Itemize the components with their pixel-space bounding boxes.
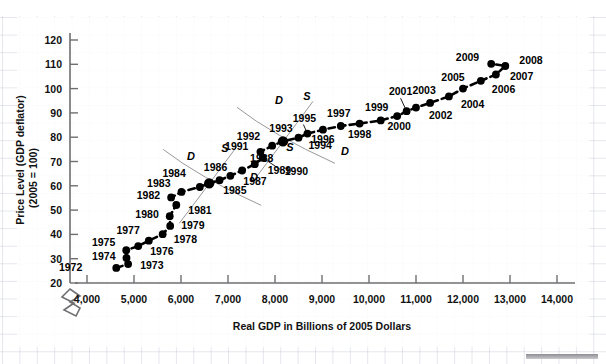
- data-point[interactable]: [426, 99, 434, 107]
- point-label: 2004: [461, 98, 485, 110]
- y-axis-title-line2: (2005 = 100): [27, 148, 39, 208]
- y-tick-label: 40: [50, 228, 62, 240]
- y-tick-label: 70: [50, 156, 62, 168]
- x-tick-label: 5,000: [121, 293, 147, 305]
- point-label: 1982: [137, 189, 161, 201]
- scatter-plot-svg: 20304050607080901001101204,0005,0006,000…: [0, 0, 606, 364]
- point-label: 2000: [388, 120, 412, 132]
- data-point[interactable]: [477, 77, 485, 85]
- data-point[interactable]: [459, 85, 467, 93]
- data-point[interactable]: [251, 160, 259, 168]
- data-point[interactable]: [377, 117, 385, 125]
- point-label: 1999: [365, 101, 389, 113]
- data-point[interactable]: [393, 112, 401, 120]
- point-label: 1998: [348, 128, 372, 140]
- data-point[interactable]: [112, 264, 120, 272]
- point-label: 2002: [429, 109, 453, 121]
- y-tick-label: 50: [50, 204, 62, 216]
- point-label: 1979: [181, 219, 205, 231]
- data-point[interactable]: [167, 194, 175, 202]
- point-label: 1976: [150, 245, 174, 257]
- point-label: 2008: [519, 54, 543, 66]
- data-point[interactable]: [145, 237, 153, 245]
- y-tick-label: 80: [50, 131, 62, 143]
- point-label: 2007: [510, 70, 534, 82]
- point-label: 2005: [441, 71, 465, 83]
- data-point[interactable]: [226, 172, 234, 180]
- data-point[interactable]: [166, 222, 174, 230]
- x-tick-label: 9,000: [309, 293, 335, 305]
- data-point[interactable]: [445, 92, 453, 100]
- data-point[interactable]: [216, 176, 224, 184]
- point-label: 1996: [311, 133, 335, 145]
- data-point[interactable]: [295, 134, 303, 142]
- data-point[interactable]: [122, 246, 130, 254]
- point-label: 1977: [116, 224, 140, 236]
- x-tick-label: 10,000: [353, 293, 385, 305]
- x-tick-label: 11,000: [400, 293, 432, 305]
- data-point[interactable]: [412, 104, 420, 112]
- data-point[interactable]: [178, 188, 186, 196]
- curve-label-S: S: [303, 90, 311, 102]
- point-label: 1972: [59, 261, 83, 273]
- x-tick-label: 13,000: [494, 293, 526, 305]
- curve-label-D: D: [187, 150, 195, 162]
- data-point[interactable]: [487, 60, 495, 68]
- x-axis-ticks: 4,0005,0006,0007,0008,0009,00010,00011,0…: [74, 275, 573, 305]
- x-axis-title: Real GDP in Billions of 2005 Dollars: [233, 320, 412, 332]
- data-point[interactable]: [492, 71, 500, 79]
- point-label: 1987: [243, 175, 267, 187]
- curve-label-D: D: [275, 94, 283, 106]
- point-label: 1978: [174, 233, 198, 245]
- point-label: 1990: [285, 165, 309, 177]
- point-label: 1974: [92, 250, 116, 262]
- y-tick-label: 90: [50, 107, 62, 119]
- data-point[interactable]: [134, 242, 142, 250]
- point-label: 1995: [293, 112, 317, 124]
- point-label: 1984: [162, 167, 186, 179]
- chart-figure: 20304050607080901001101204,0005,0006,000…: [0, 0, 606, 364]
- point-label: 2001: [389, 85, 413, 97]
- data-point[interactable]: [356, 120, 364, 128]
- y-axis-title-line1: Price Level (GDP deflator): [14, 95, 26, 224]
- point-label: 1993: [269, 122, 293, 134]
- point-label: 2009: [456, 51, 480, 63]
- point-label: 1986: [204, 161, 228, 173]
- data-point[interactable]: [123, 254, 131, 262]
- y-axis-ticks: 2030405060708090100110120: [44, 34, 78, 289]
- data-point[interactable]: [238, 167, 246, 175]
- x-tick-label: 7,000: [215, 293, 241, 305]
- data-point[interactable]: [159, 230, 167, 238]
- curve-label-D: D: [341, 145, 349, 157]
- data-point[interactable]: [278, 136, 288, 146]
- point-label: 2006: [492, 83, 516, 95]
- data-point[interactable]: [268, 142, 276, 150]
- point-label: 2003: [412, 84, 436, 96]
- data-point[interactable]: [337, 122, 345, 130]
- y-tick-label: 120: [44, 34, 62, 46]
- data-point[interactable]: [257, 148, 265, 156]
- x-tick-label: 8,000: [262, 293, 288, 305]
- point-label: 1992: [237, 130, 261, 142]
- data-point[interactable]: [172, 201, 180, 209]
- point-label: 1981: [188, 204, 212, 216]
- x-tick-label: 14,000: [541, 293, 573, 305]
- y-tick-label: 60: [50, 180, 62, 192]
- x-tick-label: 12,000: [447, 293, 479, 305]
- x-tick-label: 6,000: [168, 293, 194, 305]
- y-tick-label: 100: [44, 83, 62, 95]
- y-tick-label: 20: [50, 277, 62, 289]
- point-label: 1975: [92, 236, 116, 248]
- data-point[interactable]: [204, 178, 214, 188]
- point-label: 1973: [140, 259, 164, 271]
- data-point[interactable]: [166, 212, 174, 220]
- x-tick-label: 4,000: [74, 293, 100, 305]
- data-point[interactable]: [196, 183, 204, 191]
- data-point[interactable]: [501, 62, 509, 70]
- y-tick-label: 110: [45, 58, 62, 70]
- horizontal-scrollbar[interactable]: [526, 354, 598, 359]
- point-label: 1997: [327, 107, 351, 119]
- point-label: 1980: [135, 208, 159, 220]
